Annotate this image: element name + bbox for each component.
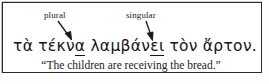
greek-word-5: ἄρτον. (203, 37, 257, 55)
greek-word-3-ending: ει (150, 37, 164, 56)
greek-word-2-stem: τέκν (38, 37, 75, 55)
english-translation-gloss: “The children are receiving the bread.” (0, 58, 262, 72)
greek-example-sentence: τὰτέκναλαμβάνειτὸνἄρτον. (13, 37, 253, 56)
greek-word-3-stem: λαμβάν (90, 37, 150, 55)
greek-word-1: τὰ (13, 37, 33, 55)
annotation-label-singular: singular (126, 10, 156, 20)
greek-word-2-ending: α (75, 37, 86, 56)
annotation-label-plural: plural (44, 10, 66, 20)
greek-word-4: τὸν (169, 37, 197, 55)
figure-container: plural singular τὰτέκναλαμβάνειτὸνἄρτον.… (0, 0, 269, 84)
